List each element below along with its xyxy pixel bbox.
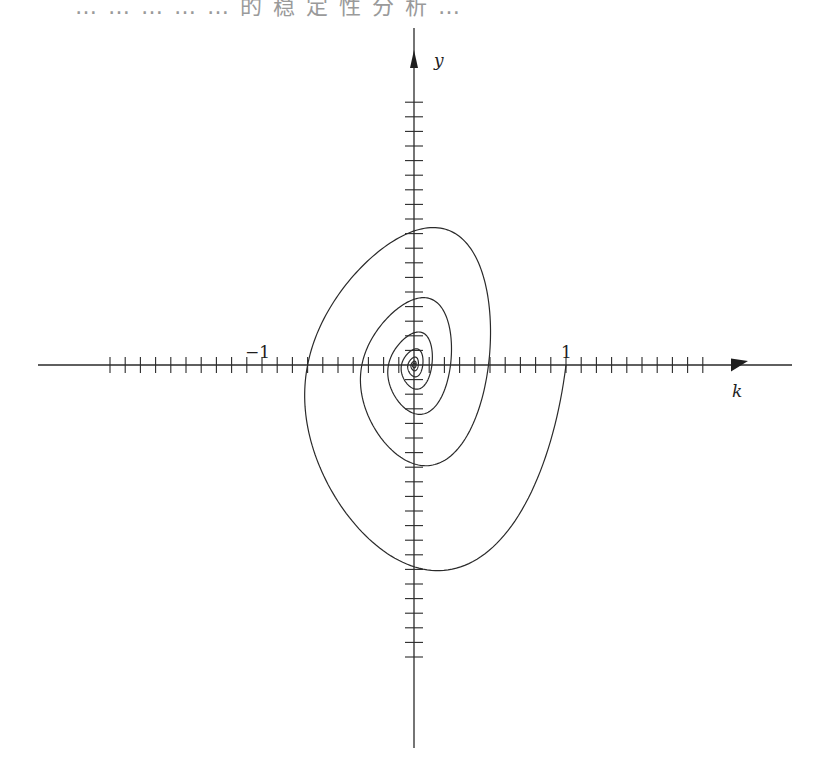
y-axis-label: y [433, 50, 444, 70]
y-axis-arrow-icon [410, 50, 418, 68]
phase-diagram: −1 1 k y [0, 0, 818, 771]
x-tick-label-1: 1 [561, 342, 572, 362]
x-tick-label-neg1: −1 [245, 342, 270, 362]
phase-trajectory [305, 228, 566, 571]
x-axis-label: k [732, 381, 742, 401]
